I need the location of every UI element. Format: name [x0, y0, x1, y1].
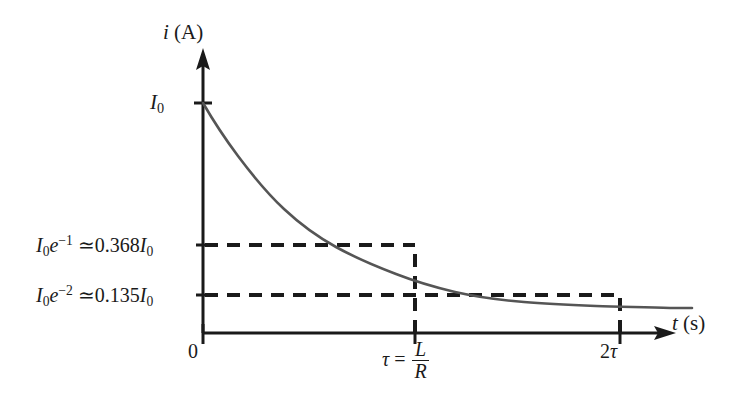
initial-current-symbol: I — [150, 90, 157, 114]
value2-exponent: −2 — [58, 283, 72, 298]
value1-exponent: −1 — [58, 233, 72, 248]
value2-result-base: I — [140, 284, 147, 306]
x-axis — [203, 326, 676, 340]
two-tau-multiplier: 2 — [600, 340, 610, 362]
initial-current-label: I0 — [150, 92, 164, 116]
value1-coefficient: 0.368 — [95, 234, 140, 256]
value-label-one-tau: I0e−1 ≃0.368I0 — [36, 234, 153, 258]
guide-lines — [205, 245, 622, 333]
tau-tick-label: τ = L R — [382, 340, 429, 383]
value2-result-subscript: 0 — [147, 294, 154, 309]
value2-approx-sign: ≃ — [78, 284, 95, 306]
value1-base: I — [36, 234, 43, 256]
x-axis-title: t (s) — [672, 313, 705, 334]
two-tau-symbol: τ — [610, 340, 617, 362]
x-axis-symbol: t — [672, 311, 678, 335]
y-axis-symbol: i — [163, 20, 169, 44]
value2-coefficient: 0.135 — [95, 284, 140, 306]
tau-equals: = — [394, 348, 405, 370]
initial-current-subscript: 0 — [157, 100, 164, 116]
y-axis-unit: (A) — [174, 20, 203, 44]
decay-curve-path — [203, 103, 692, 308]
tau-symbol: τ — [382, 348, 389, 370]
x-axis-unit: (s) — [683, 311, 705, 335]
axis-ticks — [194, 103, 620, 344]
value-label-two-tau: I0e−2 ≃0.135I0 — [36, 284, 153, 308]
two-tau-tick-label: 2τ — [600, 341, 617, 361]
value1-approx-sign: ≃ — [78, 234, 95, 256]
value1-result-base: I — [140, 234, 147, 256]
decay-curve-plot — [0, 0, 745, 406]
tau-fraction: L R — [412, 339, 428, 382]
origin-tick-label: 0 — [188, 341, 198, 361]
tau-denominator: R — [412, 360, 428, 382]
tau-numerator: L — [412, 339, 428, 360]
figure-canvas: i (A) t (s) I0 0 τ = L R 2τ I0e−1 ≃0.368… — [0, 0, 745, 406]
value1-result-subscript: 0 — [147, 244, 154, 259]
y-axis-title: i (A) — [163, 22, 203, 43]
value2-base: I — [36, 284, 43, 306]
y-axis — [196, 48, 210, 333]
